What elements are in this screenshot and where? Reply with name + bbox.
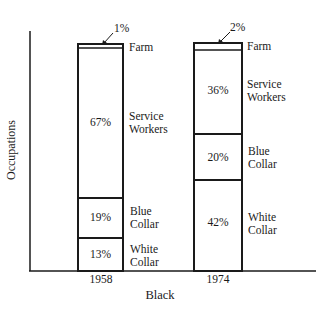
pointer-arrow-1974 bbox=[220, 32, 230, 42]
blue-label-1974: Blue Collar bbox=[248, 145, 277, 171]
blue-label-1958: Blue Collar bbox=[130, 205, 159, 231]
service-label-1974: Service Workers bbox=[247, 78, 286, 104]
stacked-bar-chart: Occupations Black 1% Farm 67% Service Wo… bbox=[0, 0, 327, 315]
white-label-1974: White Collar bbox=[248, 211, 277, 237]
farm-label-1974: Farm bbox=[247, 40, 271, 53]
white-pct-1958: 13% bbox=[78, 248, 123, 260]
blue-pct-1974: 20% bbox=[194, 151, 242, 163]
x-axis-title: Black bbox=[120, 288, 200, 303]
farm-pct-1974: 2% bbox=[230, 21, 245, 33]
white-pct-1974: 42% bbox=[194, 216, 242, 228]
year-label-1958: 1958 bbox=[77, 273, 125, 285]
bar-1958 bbox=[78, 33, 123, 271]
service-pct-1958: 67% bbox=[78, 116, 123, 128]
white-label-1958: White Collar bbox=[130, 243, 159, 269]
farm-label-1958: Farm bbox=[129, 41, 153, 54]
farm-pct-1958: 1% bbox=[114, 22, 129, 34]
pointer-arrow-1958 bbox=[104, 33, 113, 43]
chart-graphics bbox=[0, 0, 327, 315]
service-pct-1974: 36% bbox=[194, 84, 242, 96]
year-label-1974: 1974 bbox=[194, 273, 242, 285]
service-label-1958: Service Workers bbox=[129, 110, 168, 136]
blue-pct-1958: 19% bbox=[78, 211, 123, 223]
y-axis-title: Occupations bbox=[4, 100, 19, 200]
